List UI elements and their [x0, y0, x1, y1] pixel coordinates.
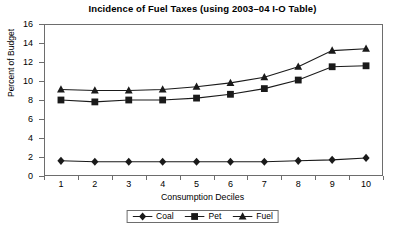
series-line-pet: [61, 66, 366, 102]
x-tick-label-2: 2: [82, 179, 108, 189]
y-tick-label-2: 2: [28, 152, 33, 162]
x-tick-mark-1: [78, 176, 79, 180]
data-point-pet-10: [363, 62, 370, 69]
data-point-fuel-10: [362, 44, 370, 51]
data-point-coal-7: [261, 158, 268, 166]
data-point-pet-9: [329, 63, 336, 70]
x-tick-label-9: 9: [319, 179, 345, 189]
data-point-coal-10: [362, 154, 369, 162]
x-tick-mark-6: [247, 176, 248, 180]
y-tick-label-12: 12: [23, 57, 33, 67]
data-point-pet-2: [91, 99, 98, 106]
x-tick-mark-0: [44, 176, 45, 180]
legend-item-fuel[interactable]: Fuel: [232, 212, 273, 221]
x-tick-mark-10: [383, 176, 384, 180]
data-point-pet-7: [261, 85, 268, 92]
data-point-coal-1: [57, 157, 64, 165]
x-tick-label-6: 6: [217, 179, 243, 189]
chart-title: Incidence of Fuel Taxes (using 2003–04 I…: [0, 3, 405, 14]
series-line-fuel: [61, 49, 366, 91]
x-tick-label-1: 1: [48, 179, 74, 189]
legend-label-coal: Coal: [155, 212, 173, 221]
data-point-pet-6: [227, 91, 234, 98]
x-axis-tick-labels: 12345678910: [44, 179, 383, 193]
y-tick-label-6: 6: [28, 114, 33, 124]
legend-marker-diamond-icon: [132, 212, 152, 221]
data-point-pet-4: [159, 97, 166, 104]
legend-label-fuel: Fuel: [255, 212, 273, 221]
legend-item-coal[interactable]: Coal: [132, 212, 173, 221]
x-axis-label: Consumption Deciles: [0, 192, 405, 202]
data-point-coal-6: [227, 158, 234, 166]
y-axis-tick-labels: 0246810121416: [0, 24, 40, 176]
data-point-coal-3: [125, 158, 132, 166]
y-tick-label-14: 14: [23, 38, 33, 48]
x-tick-mark-8: [315, 176, 316, 180]
series-fuel: [57, 44, 370, 93]
y-tick-label-0: 0: [28, 171, 33, 181]
data-point-fuel-8: [294, 63, 302, 70]
y-tick-label-8: 8: [28, 95, 33, 105]
x-tick-mark-4: [180, 176, 181, 180]
series-pet: [58, 62, 370, 105]
x-tick-label-8: 8: [285, 179, 311, 189]
data-point-coal-4: [159, 158, 166, 166]
data-point-coal-5: [193, 158, 200, 166]
x-tick-label-7: 7: [251, 179, 277, 189]
x-tick-label-10: 10: [353, 179, 379, 189]
legend-marker-triangle-icon: [232, 212, 252, 221]
x-tick-mark-2: [112, 176, 113, 180]
y-tick-label-10: 10: [23, 76, 33, 86]
data-point-pet-8: [295, 77, 302, 84]
series-coal: [57, 154, 369, 166]
x-tick-label-3: 3: [116, 179, 142, 189]
series-line-coal: [61, 158, 366, 162]
y-tick-label-4: 4: [28, 133, 33, 143]
data-point-coal-9: [329, 156, 336, 164]
data-point-pet-1: [58, 97, 65, 104]
chart-container: Incidence of Fuel Taxes (using 2003–04 I…: [0, 0, 405, 236]
y-tick-label-16: 16: [23, 19, 33, 29]
legend-item-pet[interactable]: Pet: [185, 212, 222, 221]
x-tick-mark-3: [146, 176, 147, 180]
data-point-coal-2: [91, 158, 98, 166]
x-tick-mark-5: [214, 176, 215, 180]
data-point-pet-3: [125, 97, 132, 104]
data-point-pet-5: [193, 95, 200, 102]
legend-marker-square-icon: [185, 212, 205, 221]
x-tick-label-5: 5: [184, 179, 210, 189]
data-point-fuel-1: [57, 85, 65, 92]
x-tick-mark-7: [281, 176, 282, 180]
data-point-coal-8: [295, 157, 302, 165]
legend-label-pet: Pet: [208, 212, 222, 221]
x-tick-label-4: 4: [150, 179, 176, 189]
chart-legend: CoalPetFuel: [126, 210, 279, 223]
series-layer: [44, 24, 383, 176]
x-tick-mark-9: [349, 176, 350, 180]
